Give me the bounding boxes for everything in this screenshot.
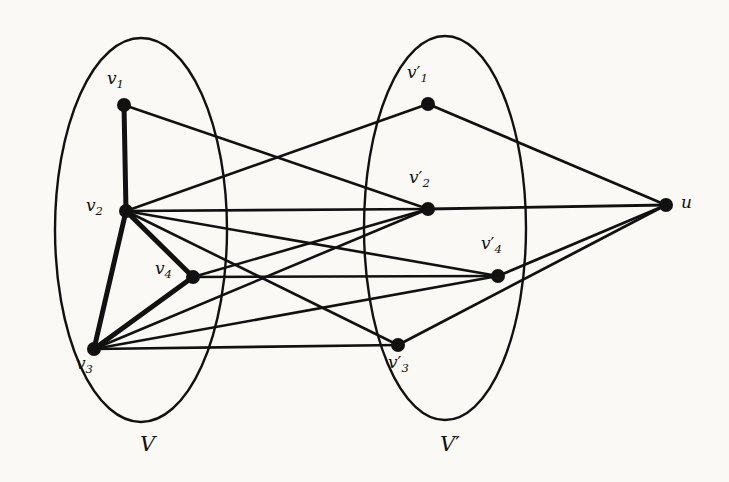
edge-v4-vp4	[193, 276, 498, 277]
edge-v1-v2	[124, 105, 126, 211]
node-label-subscript: 2	[422, 176, 429, 190]
node-v4[interactable]	[186, 270, 200, 284]
node-label-v3: v3	[76, 353, 93, 376]
set-label-vprime: V′	[440, 432, 460, 456]
node-label-vp3: v′3	[388, 352, 409, 375]
node-v1[interactable]	[117, 98, 131, 112]
edge-vp4-u	[498, 205, 666, 276]
graph-figure: VV′v1v2v3v4v′1v′2v′3v′4u	[0, 0, 729, 482]
node-label-v4: v4	[155, 258, 172, 281]
node-label-u: u	[681, 192, 692, 212]
node-label-vp1: v′1	[407, 62, 428, 85]
node-label-subscript: 1	[420, 71, 427, 85]
node-vp4[interactable]	[491, 269, 505, 283]
node-label-subscript: 2	[96, 204, 103, 218]
edge-vp1-u	[428, 104, 666, 205]
node-u[interactable]	[659, 198, 673, 212]
node-label-v2: v2	[86, 195, 103, 218]
node-label-subscript: 3	[86, 362, 93, 376]
node-label-subscript: 4	[165, 267, 172, 281]
node-v2[interactable]	[119, 204, 133, 218]
prime-mark: ′	[455, 432, 460, 456]
set-ellipses-layer	[55, 36, 526, 422]
nodes-layer	[87, 97, 673, 356]
node-vp1[interactable]	[421, 97, 435, 111]
edge-v3-vp3	[94, 345, 398, 349]
edge-vp2-u	[428, 205, 666, 209]
node-label-vp4: v′4	[481, 233, 502, 256]
set-label-v: V	[140, 432, 155, 456]
node-label-v1: v1	[107, 68, 124, 91]
edge-v2-vp2	[126, 209, 428, 211]
edges-layer	[94, 104, 666, 349]
node-vp3[interactable]	[391, 338, 405, 352]
node-label-vp2: v′2	[409, 167, 430, 190]
node-label-subscript: 4	[494, 242, 501, 256]
node-label-subscript: 3	[401, 361, 408, 375]
node-label-subscript: 1	[117, 77, 124, 91]
edge-v4-vp2	[193, 209, 428, 277]
node-vp2[interactable]	[421, 202, 435, 216]
edge-v3-vp4	[94, 276, 498, 349]
